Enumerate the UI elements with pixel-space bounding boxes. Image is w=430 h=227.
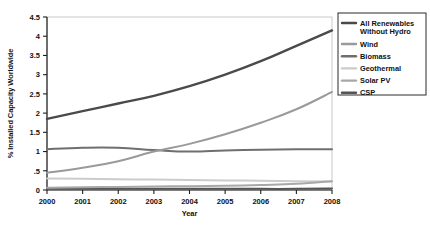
series-line-solar-pv [47,181,332,188]
series-line-all-renewables-without-hydro [47,30,332,118]
x-axis-title: Year [182,209,198,218]
x-tick-label: 2002 [110,197,127,206]
x-tick-label: 2005 [217,197,234,206]
y-tick-label: 4.5 [30,13,40,22]
x-tick-label: 2008 [324,197,341,206]
y-axis-title: % Installed Capacity Worldwide [6,49,15,158]
x-tick-label: 2001 [74,197,91,206]
legend-label-without-hydro: Without Hydro [360,27,411,36]
series-line-wind [47,92,332,173]
legend-label-solar-pv: Solar PV [360,76,390,85]
x-tick-label: 2006 [252,197,269,206]
series-line-biomass [47,147,332,151]
y-tick-label: 3 [36,70,40,79]
y-tick-label: 2 [36,109,40,118]
legend-label-geothermal: Geothermal [360,64,401,73]
series-line-geothermal [47,178,332,181]
legend-label-wind: Wind [360,40,378,49]
y-tick-label: .5 [34,167,40,176]
x-tick-label: 2003 [146,197,163,206]
y-tick-label: 4 [36,32,41,41]
legend-label-csp: CSP [360,88,375,97]
legend-label-biomass: Biomass [360,52,391,61]
y-tick-label: 2.5 [30,90,40,99]
line-chart: 0.511.522.533.544.5200020012002200320042… [0,0,430,227]
y-tick-label: 3.5 [30,51,40,60]
x-tick-label: 2000 [39,197,56,206]
y-tick-label: 1.5 [30,128,40,137]
y-tick-label: 1 [36,147,40,156]
x-tick-label: 2004 [181,197,199,206]
y-tick-label: 0 [36,186,40,195]
chart-canvas: 0.511.522.533.544.5200020012002200320042… [0,0,430,227]
plot-area [47,17,332,190]
x-tick-label: 2007 [288,197,305,206]
